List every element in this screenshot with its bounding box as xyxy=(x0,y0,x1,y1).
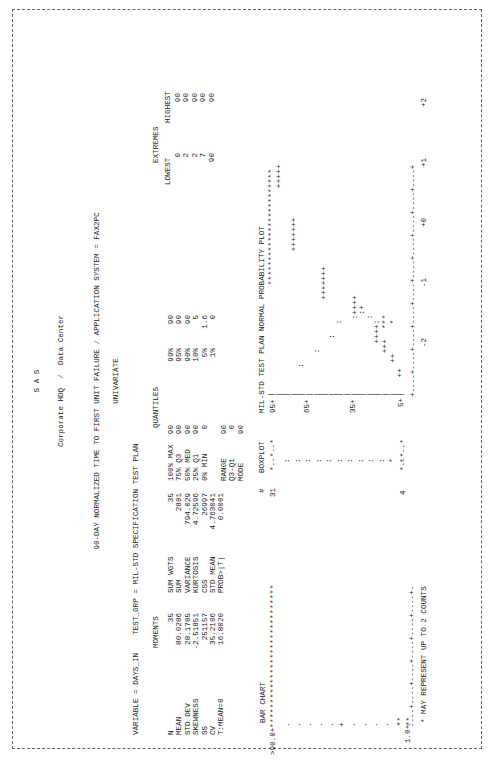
moments-value: 0.0001 xyxy=(218,493,226,520)
variable-line: VARIABLE = DAYS_IN TEST_GRP = MIL-STD SP… xyxy=(133,443,141,735)
procedure-title: UNIVARIATE xyxy=(113,358,121,404)
moments-label: PROB>|T| xyxy=(218,557,226,593)
bar-bottom-label: 1.0+ xyxy=(405,725,413,743)
extremes-title: EXTREMES xyxy=(153,127,161,163)
extremes-lowest-header: LOWEST xyxy=(165,158,173,185)
boxplot-count-header: # xyxy=(259,488,267,493)
quantiles-title: QUANTILES xyxy=(153,387,161,428)
extreme-highest: 90 xyxy=(209,93,217,102)
moments-label: T:MEAN=0 xyxy=(218,699,226,735)
quantile-stat-label: Q3-Q1 xyxy=(229,458,237,481)
moments-label: MEAN xyxy=(176,717,184,735)
quantile-value: 0 xyxy=(202,425,210,430)
boxplot-top-whisker: *--*--* xyxy=(270,439,278,471)
boxplot-stem: : : : : : : : : : : * * xyxy=(282,458,408,463)
moments-value: 16.8020 xyxy=(218,613,226,645)
moments-title: MOMENTS xyxy=(153,616,161,648)
normal-plot-x-axis: +----+----+----+----+----+----+----+----… xyxy=(410,165,418,397)
moments-label: KURTOSIS xyxy=(193,557,201,593)
x-tick-p1: +1 xyxy=(421,158,429,167)
report-title: 90-DAY NORMALIZED TIME TO FIRST UNIT FAI… xyxy=(94,212,102,549)
sas-univariate-printout: S A S Corporate HDQ / Data Center 90-DAY… xyxy=(0,0,495,763)
x-tick-m2: -2 xyxy=(421,338,429,347)
org-title: Corporate HDQ / Data Center xyxy=(58,315,66,447)
bar-chart-title: BAR CHART xyxy=(260,682,268,723)
x-tick-0: +0 xyxy=(421,218,429,227)
extreme-lowest: 90 xyxy=(209,153,217,162)
boxplot-count-top: 31 xyxy=(270,488,278,497)
bar-x-axis: ----+----+----+----+----+----+- xyxy=(409,586,417,727)
y-tick-35: 35+ xyxy=(350,399,358,413)
normal-plot-points: | ************************ | +++++ | | +… xyxy=(268,164,405,397)
normal-plot-title: MIL-STD TEST PLAN NORMAL PROBABILITY PLO… xyxy=(259,226,267,413)
boxplot-count-bottom: 4 xyxy=(400,490,408,495)
boxplot-bottom: *--*--* xyxy=(400,439,408,471)
moments-label: SKEWNESS xyxy=(193,699,201,735)
x-tick-p2: +2 xyxy=(421,98,429,107)
extremes-highest-header: HIGHEST xyxy=(165,91,173,123)
y-tick-65: 65+ xyxy=(304,399,312,413)
x-tick-m1: -1 xyxy=(421,278,429,287)
quantile-stat-value: 90 xyxy=(238,425,246,434)
quantile-label: 0% MIN xyxy=(202,454,210,481)
quantile-stat-label: MODE xyxy=(238,463,246,481)
bar-top: ***************************** xyxy=(270,584,278,728)
quantile-label: 75% Q3 xyxy=(176,454,184,481)
boxplot-title: BOXPLOT xyxy=(259,441,267,473)
quantile-label: 1% xyxy=(210,348,218,357)
bar-axis: . . . . . + . . . . . . xyxy=(282,722,414,727)
moments-label: SUM xyxy=(176,579,184,593)
sas-title: S A S xyxy=(34,370,42,393)
y-tick-95: 95+ xyxy=(270,399,278,413)
bar-top-label: >90.0+ xyxy=(270,728,278,755)
bar-footnote: * MAY REPRESENT UP TO 2 COUNTS xyxy=(421,586,429,723)
quantile-label: 25% Q1 xyxy=(193,454,201,481)
quantile-value: 0 xyxy=(210,315,218,320)
y-tick-5: 5+ xyxy=(398,398,406,407)
